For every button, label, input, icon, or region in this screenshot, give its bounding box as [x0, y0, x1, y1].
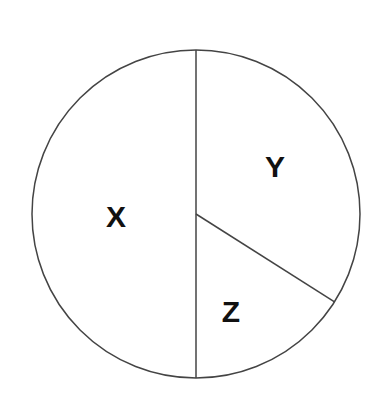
slice-divider-z — [196, 214, 335, 302]
slice-label-y: Y — [265, 150, 285, 183]
slice-label-x: X — [106, 200, 126, 233]
slice-label-z: Z — [222, 295, 240, 328]
pie-chart: X Y Z — [0, 0, 374, 408]
